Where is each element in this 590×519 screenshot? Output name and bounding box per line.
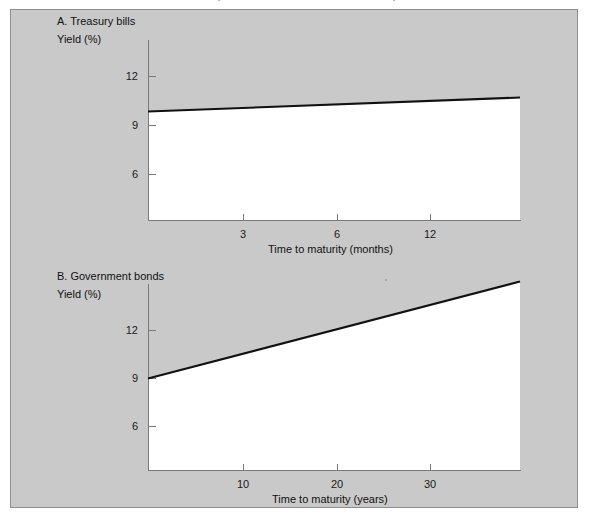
x-tick-b-10 (243, 464, 244, 471)
figure-canvas: 12 9 6 3 6 12 A. Treasury bills Yield (%… (0, 0, 590, 519)
x-tick-b-20 (337, 464, 338, 471)
panel-title-b: B. Government bonds (57, 270, 164, 283)
chart-government-bonds: 12 9 6 10 20 30 B. Government bonds Yiel… (0, 0, 590, 519)
y-tick-label-b-9: 9 (100, 373, 138, 384)
x-tick-b-30 (430, 464, 431, 471)
x-tick-label-b-20: 20 (317, 479, 357, 490)
print-speck (385, 279, 387, 281)
y-tick-label-b-12: 12 (100, 325, 138, 336)
y-tick-b-6 (149, 426, 156, 427)
data-line-government-bonds (144, 275, 526, 387)
y-tick-label-b-6: 6 (100, 421, 138, 432)
x-tick-label-b-30: 30 (410, 479, 450, 490)
y-axis-label-b: Yield (%) (57, 288, 101, 301)
x-axis-b (148, 470, 521, 471)
x-tick-label-b-10: 10 (223, 479, 263, 490)
x-axis-label-b: Time to maturity (years) (272, 493, 388, 506)
